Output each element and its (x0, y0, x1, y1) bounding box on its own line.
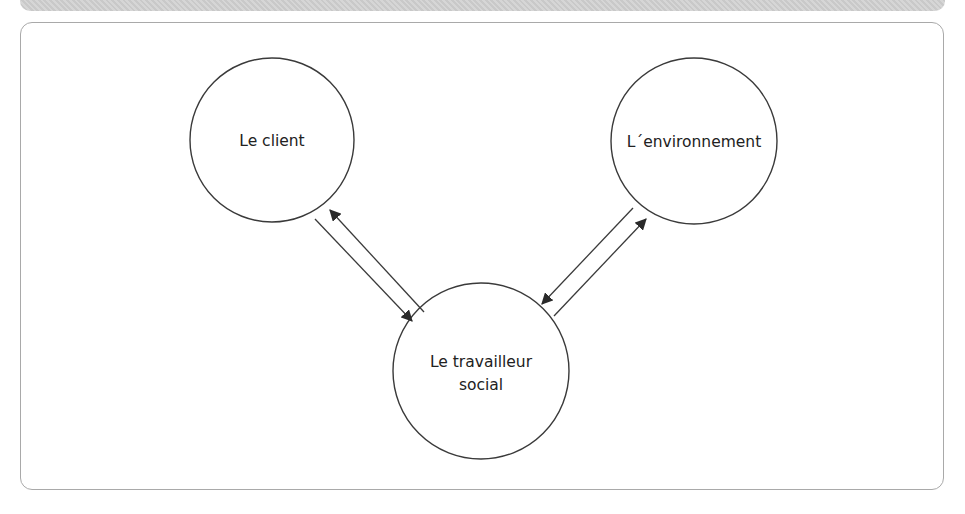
client-label: Le client (239, 132, 304, 150)
arrow-worker-to-client (330, 210, 424, 312)
arrow-client-to-worker (315, 219, 412, 321)
node-environment: L´environnement (611, 58, 777, 224)
social-worker-circle (393, 283, 569, 459)
node-social-worker: Le travailleur social (393, 283, 569, 459)
diagram-canvas: Le client L´environnement Le travailleur… (0, 0, 965, 514)
social-worker-label-line2: social (459, 376, 503, 394)
environment-label: L´environnement (627, 133, 761, 151)
node-client: Le client (190, 58, 354, 222)
arrow-worker-to-environment (554, 219, 646, 316)
social-worker-label-line1: Le travailleur (430, 353, 533, 371)
arrow-environment-to-worker (542, 208, 633, 304)
edge-client-social-worker (315, 210, 424, 321)
edge-environment-social-worker (542, 208, 646, 316)
